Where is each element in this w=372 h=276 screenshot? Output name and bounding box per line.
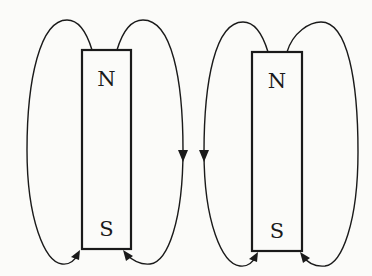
right-magnet-south-label: S <box>270 219 284 243</box>
right-magnet-right-field-line <box>287 22 358 266</box>
magnet-diagram: N S N S <box>0 0 372 276</box>
left-magnet-left-arrow-icon <box>71 250 80 260</box>
right-magnet: N S <box>199 22 358 266</box>
left-magnet: N S <box>27 20 188 264</box>
left-magnet-south-label: S <box>99 217 113 241</box>
right-magnet-left-bottom-arrow-icon <box>249 252 258 262</box>
right-magnet-north-label: N <box>268 69 286 93</box>
right-magnet-left-field-line <box>204 22 268 266</box>
left-magnet-north-label: N <box>97 67 115 91</box>
left-magnet-right-field-line <box>117 20 183 264</box>
left-magnet-right-down-arrow-icon <box>178 150 188 162</box>
right-magnet-left-down-arrow-icon <box>199 150 209 162</box>
